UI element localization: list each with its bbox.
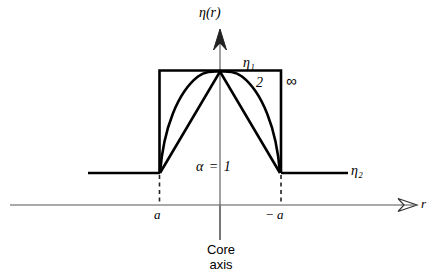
x-tick-label-negative-a: − a (265, 208, 284, 221)
core-axis-label-line2: axis (193, 258, 249, 273)
cladding-index-label: η₂ (351, 164, 363, 178)
x-tick-label-a: a (154, 208, 161, 221)
x-axis-label: r (421, 197, 426, 210)
y-axis-label: η(r) (199, 6, 221, 20)
x-axis-group (10, 199, 417, 212)
curve-label-alpha-infinity: ∞ (286, 73, 297, 88)
curve-label-alpha-2: 2 (256, 76, 263, 90)
figure-canvas (0, 0, 440, 280)
core-index-label: η₁ (243, 56, 255, 70)
core-axis-label: Core axis (193, 243, 249, 273)
curve-label-alpha-1: α = 1 (196, 160, 232, 174)
core-axis-label-line1: Core (193, 243, 249, 258)
refractive-index-profile-figure: η(r) η₁ 2 ∞ α = 1 η₂ a − a r Core axis (0, 0, 440, 280)
